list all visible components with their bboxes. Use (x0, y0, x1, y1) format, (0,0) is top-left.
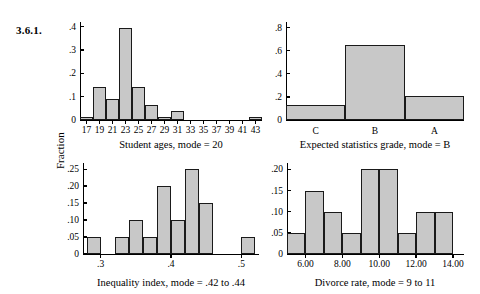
x-tick-label: 33 (186, 125, 196, 135)
x-tick (415, 254, 416, 258)
y-tick-label: .2 (258, 92, 282, 102)
y-tick (80, 73, 84, 74)
bar (171, 220, 185, 254)
y-tick-label: .15 (259, 186, 283, 196)
x-tick-label: 27 (147, 125, 157, 135)
x-tick (99, 120, 100, 124)
chart-panel-inequality-index: 0.05.10.15.20.25.3.4.5Inequality index, … (83, 163, 259, 280)
bar (435, 212, 453, 254)
x-tick-label: 17 (82, 125, 92, 135)
figure-page: 3.6.1. Fraction 0.1.2.3.4171921232527293… (0, 0, 480, 294)
y-tick-label: .4 (258, 69, 282, 79)
bar (143, 237, 157, 254)
x-tick-label: 12.00 (405, 259, 426, 269)
y-tick (286, 73, 290, 74)
y-tick-label: .05 (55, 232, 79, 242)
x-tick-label: 37 (212, 125, 222, 135)
bar (115, 237, 129, 254)
x-tick (151, 120, 152, 124)
y-tick (286, 27, 290, 28)
x-tick-label: 43 (251, 125, 261, 135)
x-tick (138, 120, 139, 124)
x-tick-label: 8.00 (334, 259, 351, 269)
y-axis-line (80, 22, 81, 120)
bar (93, 87, 106, 120)
x-tick-label: 10.00 (369, 259, 390, 269)
y-axis-line (83, 163, 84, 254)
y-tick-label: .20 (259, 164, 283, 174)
y-tick-label: .25 (55, 164, 79, 174)
plot-area-expected-statistics-grade: 0.2.4.6.8CBA (286, 22, 464, 120)
y-tick-label: .1 (52, 92, 76, 102)
y-tick (83, 202, 87, 203)
x-tick (100, 254, 101, 258)
x-tick (242, 120, 243, 124)
y-tick (80, 96, 84, 97)
x-tick-label: C (312, 126, 318, 136)
y-tick (286, 50, 290, 51)
x-tick-label: 29 (160, 125, 170, 135)
y-tick-label: .8 (258, 23, 282, 33)
bar (119, 28, 132, 120)
y-tick (286, 96, 290, 97)
x-tick (203, 120, 204, 124)
y-tick-label: .05 (259, 228, 283, 238)
y-tick (80, 26, 84, 27)
bar (287, 233, 305, 254)
x-tick-label: 25 (134, 125, 144, 135)
x-axis-line (80, 120, 262, 121)
bar (342, 233, 360, 254)
x-tick (452, 254, 453, 258)
y-tick-label: .3 (52, 45, 76, 55)
chart-panel-divorce-rate: 0.05.10.15.206.008.0010.0012.0014.00Divo… (287, 163, 464, 280)
chart-caption-divorce-rate: Divorce rate, mode = 9 to 11 (315, 277, 436, 288)
y-tick-label: 0 (55, 249, 79, 259)
x-tick-label: 23 (121, 125, 131, 135)
bar (286, 105, 345, 120)
x-tick (112, 120, 113, 124)
y-tick (83, 185, 87, 186)
x-tick-label: 19 (95, 125, 105, 135)
bar (171, 111, 184, 120)
chart-caption-student-ages: Student ages, mode = 20 (119, 139, 223, 150)
bar (129, 220, 143, 254)
x-tick (342, 254, 343, 258)
bar (345, 45, 404, 120)
x-tick (86, 120, 87, 124)
x-tick-label: A (431, 126, 438, 136)
x-tick-label: 21 (108, 125, 118, 135)
plot-area-divorce-rate: 0.05.10.15.206.008.0010.0012.0014.00 (287, 163, 464, 254)
x-tick-label: 41 (238, 125, 248, 135)
x-tick (229, 120, 230, 124)
y-tick (287, 190, 291, 191)
y-tick-label: 0 (259, 249, 283, 259)
bar (145, 105, 158, 120)
bar (241, 237, 255, 254)
y-tick-label: .20 (55, 181, 79, 191)
y-tick-label: .6 (258, 46, 282, 56)
x-tick (255, 120, 256, 124)
y-tick-label: .10 (55, 215, 79, 225)
plot-area-inequality-index: 0.05.10.15.20.25.3.4.5 (83, 163, 259, 254)
x-tick-label: 6.00 (297, 259, 314, 269)
x-tick (190, 120, 191, 124)
x-tick (125, 120, 126, 124)
x-tick (164, 120, 165, 124)
y-tick-label: .2 (52, 68, 76, 78)
x-tick-label: .5 (238, 259, 245, 269)
x-tick (379, 254, 380, 258)
y-tick-label: .4 (52, 22, 76, 32)
y-tick (287, 211, 291, 212)
y-tick (83, 219, 87, 220)
bar (87, 237, 101, 254)
x-tick-label: .3 (97, 259, 104, 269)
chart-caption-inequality-index: Inequality index, mode = .42 to .44 (97, 277, 245, 288)
bar (106, 99, 119, 120)
y-tick-label: 0 (52, 115, 76, 125)
y-tick-label: .15 (55, 198, 79, 208)
x-tick (305, 254, 306, 258)
y-tick-label: 0 (258, 115, 282, 125)
x-tick-label: B (372, 126, 378, 136)
bar (361, 169, 379, 254)
x-tick-label: .4 (167, 259, 174, 269)
